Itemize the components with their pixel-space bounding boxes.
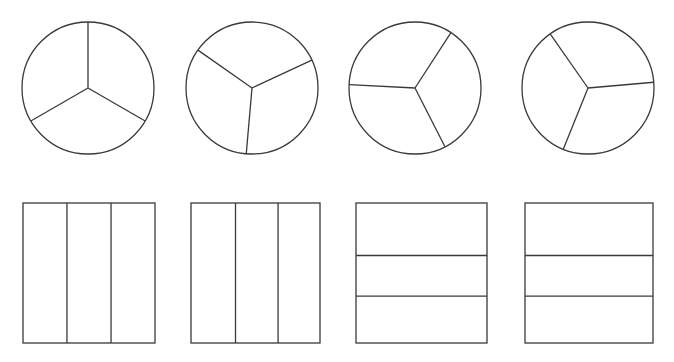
rectangle-horizontal-thirds-uneven-b-outline bbox=[525, 203, 653, 343]
rectangle-vertical-thirds-uneven-outline bbox=[191, 203, 320, 343]
rectangle-vertical-thirds-equal bbox=[23, 203, 155, 343]
circle-thirds-rotated-c-radius-2 bbox=[588, 82, 654, 88]
circle-thirds-rotated-c-radius-1 bbox=[550, 34, 588, 88]
circle-thirds-rotated-a bbox=[186, 22, 318, 154]
circle-thirds-rotated-c-radius-3 bbox=[563, 88, 588, 149]
circle-thirds-upright-radius-3 bbox=[88, 88, 145, 121]
circle-thirds-upright bbox=[22, 22, 154, 154]
circle-thirds-rotated-b bbox=[349, 22, 481, 154]
fraction-model-figure bbox=[0, 0, 674, 362]
circle-thirds-rotated-c bbox=[522, 22, 654, 154]
circle-thirds-rotated-b-radius-2 bbox=[415, 33, 451, 88]
rectangle-horizontal-thirds-uneven-a bbox=[356, 203, 487, 343]
rectangle-horizontal-thirds-uneven-a-outline bbox=[356, 203, 487, 343]
circle-thirds-upright-radius-2 bbox=[31, 88, 88, 121]
circle-thirds-rotated-b-radius-1 bbox=[349, 85, 415, 88]
circle-thirds-rotated-a-radius-2 bbox=[252, 60, 312, 88]
rectangle-vertical-thirds-uneven bbox=[191, 203, 320, 343]
circle-thirds-rotated-a-radius-1 bbox=[198, 50, 252, 88]
circle-thirds-rotated-a-radius-3 bbox=[246, 88, 252, 154]
rectangle-horizontal-thirds-uneven-b bbox=[525, 203, 653, 343]
rectangle-vertical-thirds-equal-outline bbox=[23, 203, 155, 343]
figure-svg-canvas bbox=[0, 0, 674, 362]
circle-thirds-rotated-b-radius-3 bbox=[415, 88, 445, 147]
